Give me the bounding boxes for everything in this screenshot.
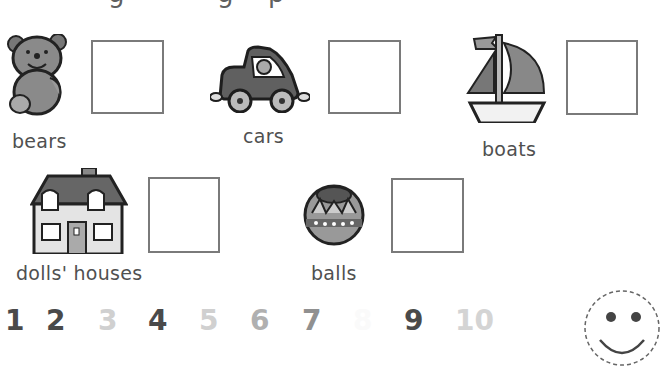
answer-box-bears[interactable] (91, 40, 164, 114)
answer-box-cars[interactable] (328, 40, 401, 114)
sailboat-icon (464, 31, 548, 123)
number-9: 9 (404, 305, 423, 337)
clipped-heading: g g p (0, 0, 657, 14)
answer-box-balls[interactable] (391, 178, 464, 253)
dolls-house-icon (30, 168, 128, 254)
toy-car-icon (210, 45, 310, 113)
item-label: cars (243, 125, 284, 147)
number-2: 2 (46, 305, 65, 337)
number-5: 5 (199, 305, 218, 337)
number-10: 10 (455, 305, 494, 337)
number-6: 6 (250, 305, 269, 337)
item-label: balls (311, 262, 357, 284)
number-4: 4 (148, 305, 167, 337)
answer-box-dolls-houses[interactable] (148, 177, 220, 253)
ball-icon (302, 183, 366, 247)
number-8: 8 (353, 305, 372, 337)
item-label: boats (482, 138, 536, 160)
clipped-heading-glyph: g (217, 0, 234, 8)
clipped-heading-glyph: g (108, 0, 125, 8)
answer-box-boats[interactable] (566, 40, 638, 115)
smiley-face-icon (582, 288, 662, 368)
item-label: bears (12, 130, 67, 152)
number-7: 7 (302, 305, 321, 337)
number-1: 1 (5, 305, 24, 337)
number-3: 3 (98, 305, 117, 337)
teddy-bear-icon (6, 34, 68, 116)
clipped-heading-glyph: p (268, 0, 285, 8)
item-label: dolls' houses (16, 262, 143, 284)
